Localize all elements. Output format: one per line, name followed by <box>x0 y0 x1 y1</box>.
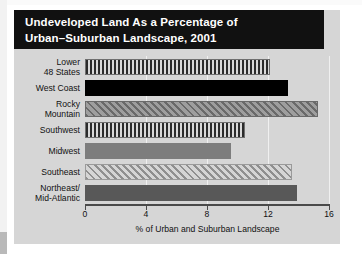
x-tick-label: 8 <box>196 209 218 219</box>
plot-area <box>85 56 329 204</box>
bar-row <box>85 59 329 75</box>
bar-row <box>85 122 329 138</box>
bar <box>85 101 318 117</box>
x-axis-title: % of Urban and Suburban Landscape <box>85 224 330 234</box>
category-axis-labels: Lower 48 StatesWest CoastRocky MountainS… <box>16 56 80 204</box>
category-label: Lower 48 States <box>44 57 80 77</box>
category-label: West Coast <box>36 83 80 93</box>
bar-row <box>85 80 329 96</box>
chart-title-bar: Undeveloped Land As a Percentage of Urba… <box>14 10 324 49</box>
category-label: Southwest <box>40 125 80 135</box>
bar-row <box>85 101 329 117</box>
bar <box>85 80 288 96</box>
chart-title-line-1: Undeveloped Land As a Percentage of <box>25 15 324 31</box>
page-canvas: Undeveloped Land As a Percentage of Urba… <box>0 0 362 254</box>
x-tick-label: 16 <box>318 209 340 219</box>
category-label: Northeast/ Mid-Atlantic <box>35 183 80 203</box>
x-tick-label: 0 <box>74 209 96 219</box>
page-edge-left-dark <box>0 232 7 254</box>
bar <box>85 122 245 138</box>
category-label: Southeast <box>41 167 80 177</box>
bar <box>85 143 231 159</box>
bar-row <box>85 143 329 159</box>
bar <box>85 59 270 75</box>
bar <box>85 185 297 201</box>
category-label: Rocky Mountain <box>45 99 80 119</box>
x-tick-label: 12 <box>257 209 279 219</box>
gridline-16 <box>329 56 330 204</box>
page-edge-top <box>0 0 362 5</box>
bar-row <box>85 164 329 180</box>
bar <box>85 164 292 180</box>
chart-title-line-2: Urban–Suburban Landscape, 2001 <box>25 31 324 47</box>
category-label: Midwest <box>48 146 80 156</box>
bar-row <box>85 185 329 201</box>
page-edge-left <box>0 0 7 254</box>
x-tick-label: 4 <box>135 209 157 219</box>
